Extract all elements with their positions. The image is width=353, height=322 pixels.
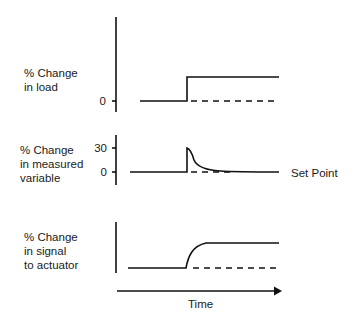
time-arrowhead-icon (274, 287, 282, 296)
control-response-diagram (0, 0, 353, 322)
panel-actuator-plot (116, 222, 279, 273)
panel-load-plot (112, 17, 279, 112)
measured-variable-response (130, 148, 279, 172)
panel-measured-plot (112, 135, 279, 185)
actuator-signal-response (128, 243, 279, 268)
load-step-line (140, 77, 279, 101)
